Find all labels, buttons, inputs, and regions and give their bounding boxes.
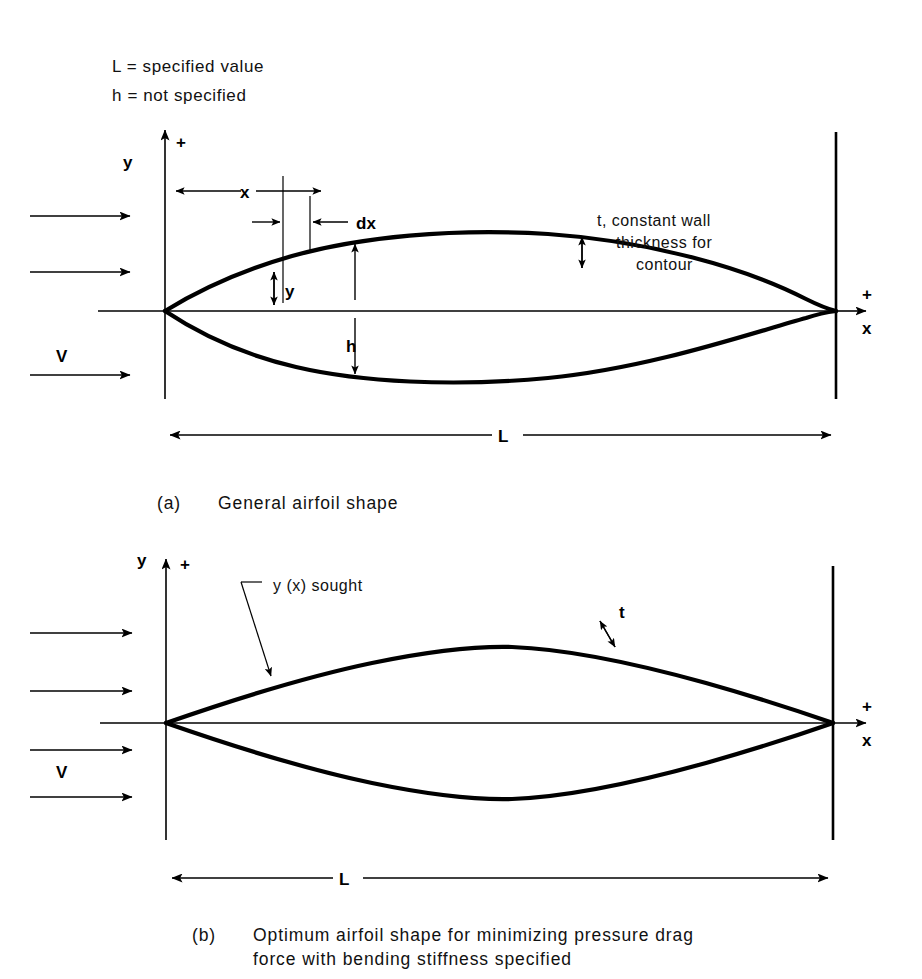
panel-a-thickness-note-1: t, constant wall [597, 212, 711, 229]
panel-a-dim-y: y [274, 272, 295, 305]
figure-canvas: L = specified value h = not specified y … [0, 0, 922, 979]
panel-a-flow-arrows [30, 216, 130, 375]
thickness-arrow-down [600, 621, 615, 647]
dim-L-label: L [498, 427, 508, 446]
panel-a-x-axis-label: x [862, 319, 872, 338]
legend-block: L = specified value h = not specified [112, 57, 264, 105]
panel-b-airfoil-upper-surface [166, 647, 833, 723]
panel-b-caption-line-1: Optimum airfoil shape for minimizing pre… [253, 925, 694, 945]
panel-a-thickness-note-3: contour [636, 256, 693, 273]
panel-b-velocity-label: V [56, 763, 68, 782]
panel-b-x-axis-plus: + [862, 697, 872, 716]
panel-b-thickness-marker: t [600, 603, 625, 647]
legend-line-L: L = specified value [112, 57, 264, 76]
panel-a-velocity-label: V [56, 347, 68, 366]
panel-b-callout-label: y (x) sought [273, 577, 363, 594]
airfoil-figure: L = specified value h = not specified y … [0, 0, 922, 979]
panel-b: y + + x V y (x) so [30, 551, 872, 969]
panel-b-flow-arrows [30, 633, 132, 797]
dim-y-label: y [285, 282, 295, 301]
dim-L-label: L [339, 870, 349, 889]
panel-a-caption-text: General airfoil shape [218, 493, 398, 513]
panel-b-y-axis-label: y [137, 551, 147, 570]
panel-b-airfoil-lower-surface [166, 723, 833, 799]
panel-b-dim-L: L [172, 870, 828, 889]
panel-a-dim-h: h [346, 244, 356, 374]
panel-a-caption-tag: (a) [157, 493, 181, 513]
panel-b-caption-line-2: force with bending stiffness specified [253, 949, 572, 969]
panel-b-x-axis-label: x [862, 731, 872, 750]
callout-leader-arrow [241, 582, 271, 676]
panel-a-airfoil-lower-surface [165, 311, 836, 382]
panel-a-airfoil-upper-surface [165, 232, 836, 311]
dim-h-label: h [346, 337, 356, 356]
panel-a-thickness-note-2: thickness for [616, 234, 712, 251]
panel-b-thickness-label: t [619, 603, 625, 622]
panel-a-y-axis-plus: + [176, 133, 186, 152]
panel-b-callout-yx: y (x) sought [241, 577, 363, 676]
dim-dx-label: dx [356, 214, 376, 233]
panel-a-x-axis-plus: + [862, 285, 872, 304]
panel-a-y-axis-label: y [123, 153, 133, 172]
legend-line-h: h = not specified [112, 86, 246, 105]
panel-b-caption-tag: (b) [192, 925, 216, 945]
panel-b-y-axis-plus: + [180, 555, 190, 574]
panel-a-dim-x: x [176, 183, 321, 202]
panel-a: y + + x V x [30, 130, 872, 513]
panel-a-dim-L: L [170, 427, 831, 446]
dim-x-label: x [240, 183, 250, 202]
panel-a-dim-dx: dx [252, 214, 376, 233]
